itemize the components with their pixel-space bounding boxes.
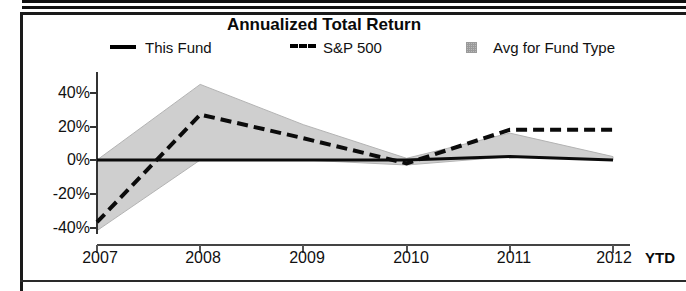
legend-item-sp-500: S&P 500 xyxy=(290,36,382,58)
legend-label-sp-500: S&P 500 xyxy=(323,39,382,56)
dashed-line-swatch-icon xyxy=(290,44,316,48)
y-axis-labels: 40% 20% 0% -20% -40% xyxy=(22,0,90,291)
legend-label-this-fund: This Fund xyxy=(145,39,212,56)
solid-line-swatch-icon xyxy=(110,45,136,49)
shaded-square-swatch-icon xyxy=(466,42,477,53)
chart-title: Annualized Total Return xyxy=(0,15,648,35)
chart-svg xyxy=(97,72,630,247)
y-tick-label-neg40: -40% xyxy=(53,219,90,237)
plot-area xyxy=(97,72,630,247)
x-axis-labels: 2007 2008 2009 2010 2011 2012 xyxy=(0,249,686,277)
x-tick-label-2007: 2007 xyxy=(82,249,118,267)
x-tick-label-2008: 2008 xyxy=(185,249,221,267)
x-tick-label-2010: 2010 xyxy=(393,249,429,267)
legend-item-this-fund: This Fund xyxy=(110,36,212,58)
chart-legend: This Fund S&P 500 Avg for Fund Type xyxy=(0,36,660,58)
legend-label-avg-for-fund-type: Avg for Fund Type xyxy=(493,39,615,56)
chart-frame-bottom-border xyxy=(20,280,686,282)
x-tick-label-2011: 2011 xyxy=(497,249,531,267)
y-tick-label-40: 40% xyxy=(58,84,90,102)
y-tick-label-20: 20% xyxy=(58,118,90,136)
x-axis-ytd-label: YTD xyxy=(645,249,675,266)
y-tick-label-0: 0% xyxy=(67,151,90,169)
y-tick-label-neg20: -20% xyxy=(53,185,90,203)
scan-artifact-bar-upper xyxy=(22,0,686,3)
x-tick-label-2012: 2012 xyxy=(596,249,632,267)
scan-artifact-bar-lower xyxy=(22,6,686,9)
legend-item-avg-for-fund-type: Avg for Fund Type xyxy=(466,36,615,58)
x-tick-label-2009: 2009 xyxy=(289,249,325,267)
chart-screenshot: Annualized Total Return This Fund S&P 50… xyxy=(0,0,686,291)
